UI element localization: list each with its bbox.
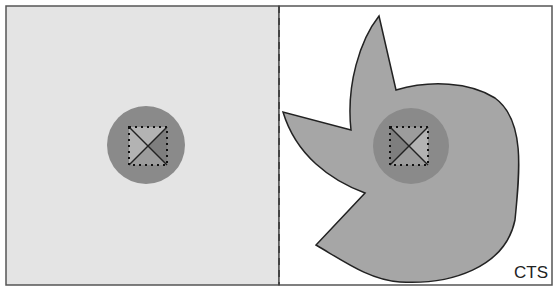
cts-label: CTS (514, 263, 548, 282)
left-crossed-square (129, 127, 167, 165)
diagram: CTS (0, 0, 558, 293)
right-crossed-square (390, 127, 428, 165)
right-panel: CTS (279, 6, 552, 285)
left-panel (6, 6, 279, 285)
